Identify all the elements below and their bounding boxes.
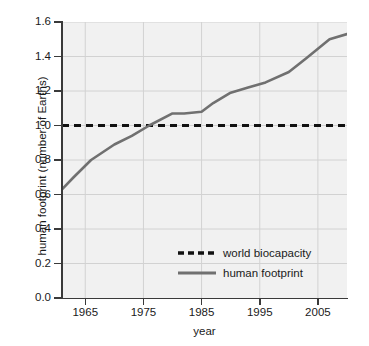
x-tick-label: 1975 [113,307,173,319]
series-line-human-footprint [62,34,347,189]
legend-swatch-dashed-icon [178,248,216,258]
legend-item-world-biocapacity: world biocapacity [178,243,311,263]
y-tick-mark [54,263,62,265]
x-tick-mark [317,298,319,305]
y-tick-label: 1.6 [5,16,51,28]
y-tick-mark [54,90,62,92]
y-tick-mark [54,56,62,58]
y-tick-mark [54,125,62,127]
x-tick-label: 1995 [230,307,290,319]
y-tick-mark [54,21,62,23]
chart-figure: 0.00.20.40.60.81.01.21.41.6 196519751985… [0,0,369,346]
x-tick-mark [259,298,261,305]
x-axis-title: year [62,325,347,337]
x-tick-label: 1985 [172,307,232,319]
chart-legend: world biocapacity human footprint [178,243,311,283]
y-tick-mark [54,159,62,161]
y-axis-title: human footprint (number of Earths) [36,28,48,304]
y-tick-mark [54,228,62,230]
x-axis-line [61,298,348,300]
y-tick-mark [54,297,62,299]
x-tick-label: 2005 [288,307,348,319]
x-tick-label: 1965 [55,307,115,319]
legend-label-world-biocapacity: world biocapacity [223,247,311,259]
legend-item-human-footprint: human footprint [178,263,311,283]
x-tick-mark [85,298,87,305]
legend-swatch-solid-icon [178,268,216,278]
x-tick-mark [143,298,145,305]
legend-label-human-footprint: human footprint [223,267,303,279]
x-tick-mark [201,298,203,305]
y-tick-mark [54,194,62,196]
